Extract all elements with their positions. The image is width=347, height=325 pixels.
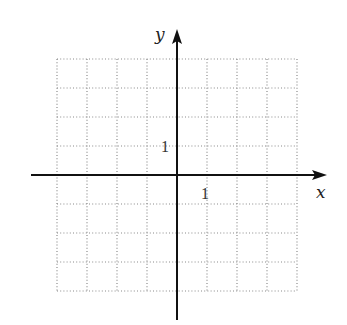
coordinate-plane: x y 1 1 xyxy=(0,0,347,325)
y-tick-label: 1 xyxy=(161,138,169,155)
x-axis-label: x xyxy=(316,182,326,202)
y-axis-label: y xyxy=(154,24,165,44)
x-tick-label: 1 xyxy=(201,185,209,202)
x-axis xyxy=(31,170,327,180)
